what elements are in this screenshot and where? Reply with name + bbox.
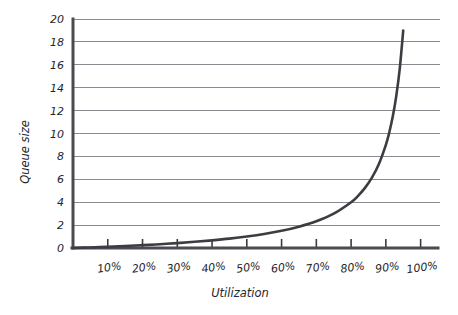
gridlines [73, 19, 440, 225]
x-axis-tick-label: 60% [270, 259, 296, 275]
y-axis-tick-label: 2 [57, 219, 64, 232]
queue-size-curve [73, 30, 403, 248]
x-axis-tick-label: 70% [305, 259, 331, 275]
y-axis-tick-label: 14 [50, 82, 64, 95]
chart-container: 02468101214161820 10%20%30%40%50%60%70%8… [0, 0, 458, 315]
x-axis-tick-label: 100% [406, 259, 439, 276]
y-axis-tick-label: 0 [57, 242, 64, 255]
x-axis-tick-label: 90% [374, 259, 400, 275]
x-axis-tick-label: 20% [131, 259, 157, 275]
y-axis-tick-label: 10 [50, 128, 64, 141]
y-axis-tick-label: 18 [50, 36, 64, 49]
x-axis-tick-label: 10% [96, 259, 122, 275]
y-axis-tick-label: 16 [50, 59, 64, 72]
y-axis-title: Queue size [18, 120, 32, 184]
x-axis-title: Utilization [211, 286, 269, 300]
y-axis-tick-label: 4 [57, 196, 64, 209]
y-axis-tick-labels: 02468101214161820 [50, 13, 64, 255]
x-axis-tick-labels: 10%20%30%40%50%60%70%80%90%100% [96, 259, 438, 276]
x-axis-tick-label: 30% [166, 259, 192, 275]
x-axis-tick-label: 50% [235, 259, 261, 275]
queue-size-chart: 02468101214161820 10%20%30%40%50%60%70%8… [0, 0, 458, 315]
y-axis-tick-label: 8 [57, 150, 64, 163]
y-axis-tick-label: 12 [50, 105, 64, 118]
y-axis-tick-label: 6 [57, 173, 64, 186]
x-axis-tick-label: 80% [340, 259, 366, 275]
x-axis-tick-label: 40% [201, 259, 227, 275]
y-axis-tick-label: 20 [50, 13, 64, 26]
